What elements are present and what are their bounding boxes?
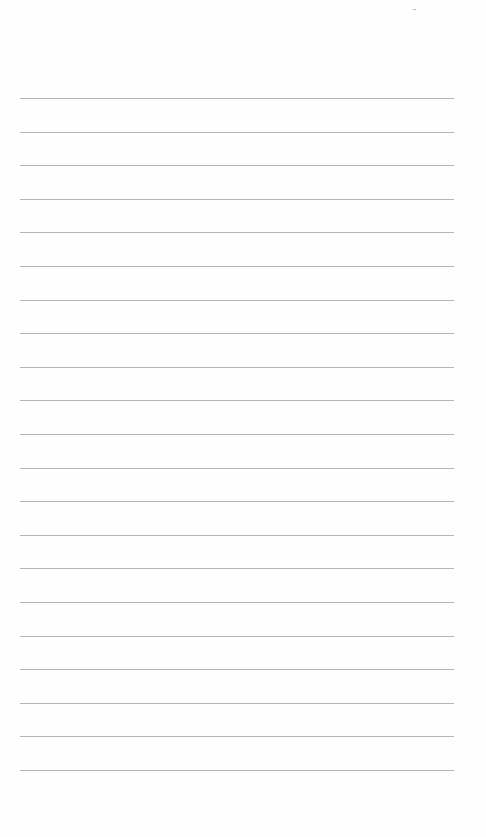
ruled-line [20, 266, 454, 267]
ruled-line [20, 165, 454, 166]
ruled-line [20, 736, 454, 737]
ruled-line [20, 333, 454, 334]
ruled-line [20, 669, 454, 670]
ruled-line [20, 636, 454, 637]
ruled-line [20, 98, 454, 99]
ruled-line [20, 434, 454, 435]
ruled-line [20, 535, 454, 536]
ruled-line [20, 232, 454, 233]
ruled-line [20, 501, 454, 502]
ruled-line [20, 468, 454, 469]
ruled-line [20, 602, 454, 603]
ruled-line [20, 367, 454, 368]
ruled-line [20, 568, 454, 569]
paper-speck [413, 9, 416, 10]
ruled-line [20, 400, 454, 401]
ruled-line [20, 300, 454, 301]
ruled-line [20, 132, 454, 133]
ruled-line [20, 770, 454, 771]
ruled-line [20, 199, 454, 200]
ruled-line [20, 703, 454, 704]
ruled-page [0, 0, 486, 837]
